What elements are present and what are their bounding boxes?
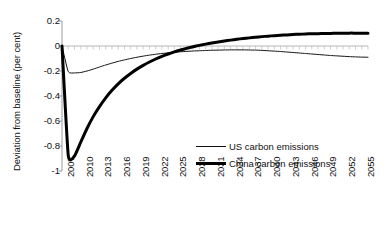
x-tick-label: 2010 — [85, 157, 95, 177]
x-tick-label: 2019 — [141, 157, 151, 177]
chart-legend: US carbon emissions China carbon emissio… — [196, 138, 376, 172]
legend-item-us: US carbon emissions — [196, 138, 376, 155]
x-tick-label: 2016 — [122, 157, 132, 177]
x-tick-label: 2007 — [66, 157, 76, 177]
legend-line-swatch-china — [196, 162, 226, 165]
chart-figure: Deviation from baseline (per cent) 0.2 0… — [0, 0, 391, 230]
x-tick-label: 2022 — [160, 157, 170, 177]
x-tick-label: 2025 — [178, 157, 188, 177]
legend-line-swatch-us — [196, 146, 226, 147]
legend-label-us: US carbon emissions — [229, 141, 319, 152]
legend-item-china: China carbon emissions — [196, 155, 376, 172]
x-axis-tick-labels: 2007201020132016201920222025202820312034… — [0, 0, 391, 230]
x-tick-label: 2013 — [103, 157, 113, 177]
legend-label-china: China carbon emissions — [229, 158, 330, 169]
